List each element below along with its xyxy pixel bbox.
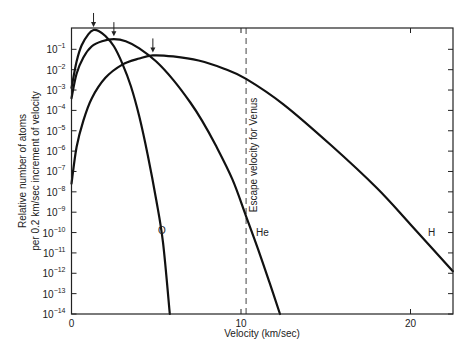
x-axis-ticks: 01020: [69, 28, 417, 329]
y-tick-label: 10−12: [43, 266, 66, 279]
y-tick-label: 10−1: [46, 42, 65, 55]
y-axis-title: Relative number of atoms per 0.2 km/sec …: [17, 91, 41, 251]
y-tick-label: 10−11: [43, 246, 66, 259]
arrow-head-icon: [150, 47, 155, 52]
y-tick-label: 10−3: [46, 83, 65, 96]
curve-label-he: He: [256, 227, 269, 238]
plot-frame: [72, 28, 454, 314]
y-tick-label: 10−13: [43, 287, 66, 300]
y-axis-title-line-2: per 0.2 km/sec increment of velocity: [30, 91, 41, 251]
y-tick-label: 10−2: [46, 63, 65, 76]
y-axis-title-line-1: Relative number of atoms: [17, 114, 28, 228]
x-tick-label: 20: [405, 318, 417, 329]
curve-h: [72, 55, 453, 271]
chart-canvas: 10−110−210−310−410−510−610−710−810−910−1…: [0, 0, 472, 352]
escape-velocity-label: Escape velocity for Venus: [248, 98, 259, 213]
curve-labels: OHeH: [158, 225, 435, 238]
x-tick-label: 0: [69, 318, 75, 329]
y-tick-label: 10−5: [46, 124, 65, 137]
y-tick-label: 10−6: [46, 144, 65, 157]
arrow-head-icon: [91, 22, 96, 27]
curve-o: [72, 30, 170, 314]
series-curves: [72, 30, 453, 314]
y-tick-label: 10−9: [46, 205, 65, 218]
arrow-head-icon: [111, 31, 116, 36]
y-tick-label: 10−14: [43, 307, 66, 320]
y-tick-label: 10−10: [43, 226, 66, 239]
curve-label-h: H: [428, 227, 435, 238]
y-tick-label: 10−7: [46, 164, 65, 177]
y-tick-label: 10−4: [46, 103, 65, 116]
curve-label-o: O: [158, 225, 166, 236]
y-tick-label: 10−8: [46, 185, 65, 198]
x-axis-title: Velocity (km/sec): [224, 328, 300, 339]
